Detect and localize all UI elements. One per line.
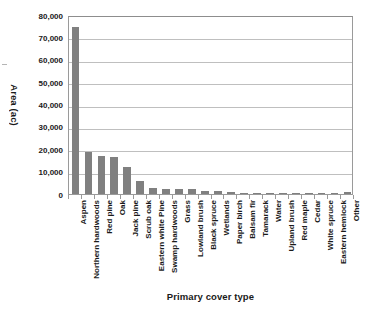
x-axis-tick-mark [198,195,199,199]
bar[interactable] [136,181,144,194]
bar-slot [149,17,157,194]
bar[interactable] [318,193,326,194]
x-axis-category-label: Grass [182,200,194,223]
x-axis-category-label: Red maple [299,200,311,240]
bar[interactable] [162,189,170,194]
bar-slot [110,17,118,194]
x-axis-category-label: Balsam fir [247,200,259,239]
x-axis-tick-mark [211,195,212,199]
bar[interactable] [201,191,209,194]
y-axis-tick-label: 10,000 [23,168,63,177]
x-axis-tick-mark [249,195,250,199]
x-axis-tick-mark [133,195,134,199]
y-axis-tick-label: 50,000 [23,79,63,88]
x-axis-tick-mark [353,195,354,199]
bar-slot [331,17,339,194]
x-axis-tick-mark [81,195,82,199]
y-axis-tick-label: 70,000 [23,34,63,43]
x-axis-tick-mark [314,195,315,199]
bar[interactable] [98,156,106,194]
bar[interactable] [214,191,222,194]
x-axis-category-label: Lowland brush [195,200,207,257]
y-axis-tick-label: 80,000 [23,12,63,21]
bar[interactable] [72,27,80,194]
x-axis-tick-mark [185,195,186,199]
bar-slot [214,17,222,194]
x-axis-tick-mark [301,195,302,199]
edge-artifact-mark [2,64,7,65]
bar[interactable] [240,193,248,194]
x-axis-tick-mark [94,195,95,199]
x-axis-tick-marks [68,195,353,199]
bar-slot [279,17,287,194]
x-axis-title: Primary cover type [68,291,353,302]
bar[interactable] [123,167,131,194]
x-axis-category-label: Tamarack [260,200,272,237]
x-axis-category-label: Jack pine [130,200,142,236]
x-axis-category-label: Upland brush [286,200,298,252]
bar-slot [85,17,93,194]
bar[interactable] [344,192,352,194]
x-axis-category-label: Scrub oak [143,200,155,239]
bar[interactable] [227,192,235,194]
x-axis-category-label: Wetlands [221,200,233,235]
bar-slot [123,17,131,194]
bars-layer [69,17,352,194]
bar-slot [253,17,261,194]
x-axis-tick-mark [327,195,328,199]
bar[interactable] [110,157,118,194]
bar-slot [266,17,274,194]
x-axis-tick-mark [275,195,276,199]
bar-slot [175,17,183,194]
bar-slot [227,17,235,194]
bar[interactable] [305,193,313,194]
x-axis-tick-mark [159,195,160,199]
bar[interactable] [279,193,287,194]
plot-area [68,16,353,195]
bar[interactable] [149,188,157,194]
bar[interactable] [292,193,300,194]
x-axis-tick-mark [146,195,147,199]
x-axis-tick-mark [262,195,263,199]
x-axis-tick-mark [68,195,69,199]
bar[interactable] [331,193,339,194]
bar[interactable] [266,193,274,194]
x-axis-category-label: Northern hardwoods [91,200,103,279]
y-axis-tick-label: 30,000 [23,123,63,132]
bar-slot [188,17,196,194]
bar-slot [162,17,170,194]
y-axis-tick-labels: 80,00070,00060,00050,00040,00030,00020,0… [26,11,66,201]
bar-slot [292,17,300,194]
x-axis-category-label: Red pine [104,200,116,234]
bar-slot [98,17,106,194]
x-axis-tick-mark [288,195,289,199]
y-axis-tick-label: 40,000 [23,101,63,110]
x-axis-category-label: Paper birch [234,200,246,244]
x-axis-tick-mark [236,195,237,199]
y-axis-title: Area (ac) [9,0,27,55]
bar[interactable] [253,193,261,194]
x-axis-tick-mark [223,195,224,199]
x-axis-category-label: Other [351,200,363,221]
x-axis-category-label: Water [273,200,285,222]
bar-slot [344,17,352,194]
x-axis-category-label: Eastern white Pine [156,200,168,271]
y-axis-tick-label: 20,000 [23,146,63,155]
y-axis-tick-label: 60,000 [23,56,63,65]
x-axis-category-label: Oak [117,200,129,215]
bar-slot [305,17,313,194]
bar-chart: Area (ac) 80,00070,00060,00050,00040,000… [0,0,369,316]
bar-slot [201,17,209,194]
x-axis-tick-mark [107,195,108,199]
bar[interactable] [175,189,183,194]
x-axis-category-labels: AspenNorthern hardwoodsRed pineOakJack p… [68,200,353,286]
x-axis-category-label: Cedar [312,200,324,223]
bar-slot [72,17,80,194]
x-axis-tick-mark [120,195,121,199]
bar[interactable] [85,152,93,195]
x-axis-category-label: White spruce [325,200,337,250]
y-axis-tick-label: 0 [23,191,63,200]
x-axis-tick-mark [340,195,341,199]
bar[interactable] [188,189,196,194]
x-axis-category-label: Swamp hardwoods [169,200,181,273]
